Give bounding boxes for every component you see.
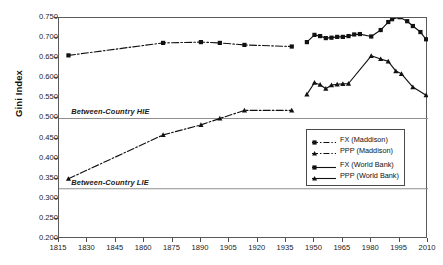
x-tick-mark xyxy=(172,238,173,242)
data-point-marker xyxy=(318,34,322,38)
plot-annotation: Between-Country HIE xyxy=(71,107,149,116)
data-point-marker xyxy=(405,19,409,23)
y-tick-label: 0.400 xyxy=(24,154,58,162)
x-tick-mark xyxy=(143,238,144,242)
y-tick-label: 0.550 xyxy=(24,93,58,101)
legend-item[interactable]: FX (Maddison) xyxy=(311,134,399,145)
x-tick-mark xyxy=(115,238,116,242)
y-tick-label: 0.750 xyxy=(24,13,58,21)
legend-triangle-marker-icon xyxy=(311,145,337,156)
data-point-marker xyxy=(358,32,362,36)
data-point-marker xyxy=(424,37,428,41)
legend-label: PPP (Maddison) xyxy=(337,146,393,155)
data-point-marker xyxy=(398,18,402,19)
data-point-marker xyxy=(335,35,339,39)
y-tick-label: 0.250 xyxy=(24,214,58,222)
x-tick-mark xyxy=(399,238,400,242)
data-point-marker xyxy=(66,53,70,57)
y-axis-tick-labels: 0.2000.2500.3000.3500.4000.4500.5000.550… xyxy=(18,0,58,265)
x-tick-mark xyxy=(58,238,59,242)
legend-label: PPP (World Bank) xyxy=(337,171,399,180)
data-point-marker xyxy=(418,30,422,34)
x-tick-mark xyxy=(313,238,314,242)
data-point-marker xyxy=(390,18,394,21)
data-series xyxy=(305,18,428,44)
data-point-marker xyxy=(290,44,294,48)
x-tick-mark xyxy=(86,238,87,242)
series-line xyxy=(68,110,291,178)
y-tick-label: 0.350 xyxy=(24,174,58,182)
y-tick-label: 0.300 xyxy=(24,194,58,202)
plot-annotation: Between-Country LIE xyxy=(71,178,149,187)
legend-item[interactable]: PPP (Maddison) xyxy=(311,145,399,156)
chart-legend: FX (Maddison)PPP (Maddison)FX (World Ban… xyxy=(306,129,405,186)
data-point-marker xyxy=(352,32,356,36)
data-point-marker xyxy=(161,41,165,45)
data-point-marker xyxy=(411,24,415,28)
x-tick-mark xyxy=(257,238,258,242)
chart-figure: Gini Index 0.2000.2500.3000.3500.4000.45… xyxy=(0,0,443,265)
data-point-marker xyxy=(399,71,404,76)
x-tick-mark xyxy=(200,238,201,242)
legend-triangle-marker-icon xyxy=(311,170,337,181)
x-tick-mark xyxy=(228,238,229,242)
data-point-marker xyxy=(341,35,345,39)
data-point-marker xyxy=(305,40,309,44)
series-line xyxy=(68,42,291,55)
data-point-marker xyxy=(199,40,203,44)
data-point-marker xyxy=(369,53,374,58)
legend-label: FX (World Bank) xyxy=(337,160,394,169)
x-tick-mark xyxy=(427,238,428,242)
plot-area xyxy=(58,17,427,238)
y-tick-label: 0.650 xyxy=(24,53,58,61)
data-point-marker xyxy=(346,34,350,38)
data-point-marker xyxy=(312,80,317,85)
data-point-marker xyxy=(379,28,383,32)
y-tick-label: 0.500 xyxy=(24,113,58,121)
data-point-marker xyxy=(369,34,373,38)
data-point-marker xyxy=(386,20,390,24)
data-point-marker xyxy=(424,93,428,98)
data-series xyxy=(66,40,293,57)
x-tick-mark xyxy=(285,238,286,242)
legend-square-marker-icon xyxy=(311,134,337,145)
x-tick-mark xyxy=(370,238,371,242)
y-tick-label: 0.450 xyxy=(24,134,58,142)
x-tick-mark xyxy=(342,238,343,242)
data-point-marker xyxy=(329,36,333,40)
y-tick-label: 0.200 xyxy=(24,234,58,242)
legend-square-marker-icon xyxy=(311,159,337,170)
legend-item[interactable]: FX (World Bank) xyxy=(311,159,399,170)
legend-item[interactable]: PPP (World Bank) xyxy=(311,170,399,181)
y-tick-label: 0.700 xyxy=(24,33,58,41)
legend-label: FX (Maddison) xyxy=(337,135,388,144)
x-tick-label: 2010 xyxy=(407,243,443,252)
data-point-marker xyxy=(218,41,222,45)
data-point-marker xyxy=(312,33,316,37)
data-point-marker xyxy=(324,36,328,40)
data-point-marker xyxy=(242,43,246,47)
y-tick-label: 0.600 xyxy=(24,73,58,81)
data-series xyxy=(304,53,428,97)
